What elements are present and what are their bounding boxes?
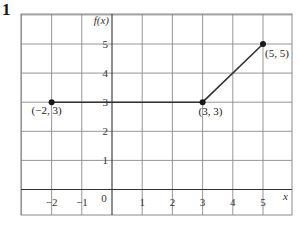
- y-axis-title: f(x): [94, 14, 110, 27]
- y-tick-label: 1: [103, 154, 109, 166]
- y-tick-label: 2: [103, 125, 109, 137]
- x-tick-label: 4: [230, 196, 236, 208]
- point-label: (3, 3): [199, 105, 223, 118]
- x-tick-label: 5: [260, 196, 266, 208]
- point-label: (5, 5): [265, 47, 289, 60]
- x-tick-label: 3: [200, 196, 206, 208]
- x-tick-label: −1: [76, 196, 88, 208]
- grid: [21, 14, 292, 215]
- y-tick-label: 5: [103, 38, 109, 50]
- x-axis-title: x: [282, 190, 288, 202]
- x-tick-label: 2: [170, 196, 176, 208]
- function-graph: −2−101234512345 (−2, 3)(3, 3)(5, 5) f(x)…: [0, 0, 300, 226]
- x-tick-label: 1: [139, 196, 145, 208]
- data-series: (−2, 3)(3, 3)(5, 5): [32, 41, 290, 118]
- y-tick-label: 4: [103, 67, 109, 79]
- point-label: (−2, 3): [32, 104, 62, 117]
- x-tick-label: 0: [101, 192, 107, 204]
- x-tick-label: −2: [46, 196, 58, 208]
